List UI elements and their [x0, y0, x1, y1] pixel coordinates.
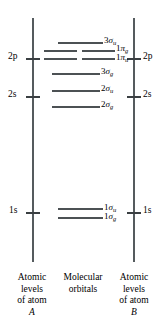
left-tick-2s — [26, 96, 40, 98]
right-atomic-axis — [133, 18, 135, 262]
mo-label-3sigma-g: 3σg — [101, 67, 113, 76]
right-tick-2p — [127, 58, 141, 60]
left-level-label-2s: 2s — [8, 90, 16, 100]
mo-level-3sigma-u — [58, 42, 103, 44]
right-tick-1s — [127, 212, 141, 214]
mo-level-2sigma-g — [52, 106, 100, 108]
mo-label-1sigma-g: 1σg — [104, 212, 116, 221]
left-atomic-axis — [32, 18, 34, 262]
mo-level-3sigma-g — [52, 73, 100, 75]
caption-right-line-2: levels — [102, 284, 165, 296]
caption-right-line-3: of atom — [102, 295, 165, 307]
right-level-label-2p: 2p — [143, 52, 153, 62]
left-tick-1s — [26, 212, 40, 214]
mo-level-2sigma-u — [52, 90, 100, 92]
mo-level-1pi-u-left — [44, 58, 77, 60]
mo-label-3sigma-u: 3σu — [104, 36, 116, 45]
caption-left-atom-id: A — [0, 307, 64, 319]
right-tick-2s — [127, 96, 141, 98]
mo-level-1sigma-g — [58, 217, 103, 219]
left-tick-2p — [26, 58, 40, 60]
mo-energy-level-diagram: 2p 2s 1s 2p 2s 1s 3σu 1πg 1πu 3σg 2σu 2σ… — [0, 0, 165, 329]
mo-level-1pi-u-right — [82, 58, 115, 60]
right-level-label-2s: 2s — [143, 90, 151, 100]
caption-right-line-1: Atomic — [102, 272, 165, 284]
mo-level-1sigma-u — [58, 208, 103, 210]
left-level-label-2p: 2p — [8, 52, 18, 62]
mo-level-1pi-g-right — [82, 50, 115, 52]
caption-left-line-3: of atom — [0, 295, 64, 307]
left-level-label-1s: 1s — [9, 206, 17, 216]
right-level-label-1s: 1s — [143, 206, 151, 216]
mo-label-2sigma-u: 2σu — [101, 84, 113, 93]
caption-right-atom-id: B — [102, 307, 165, 319]
mo-label-1pi-u: 1πu — [116, 53, 128, 62]
mo-label-2sigma-g: 2σg — [101, 100, 113, 109]
mo-level-1pi-g-left — [44, 50, 77, 52]
caption-right-atom: Atomic levels of atom B — [102, 272, 165, 318]
